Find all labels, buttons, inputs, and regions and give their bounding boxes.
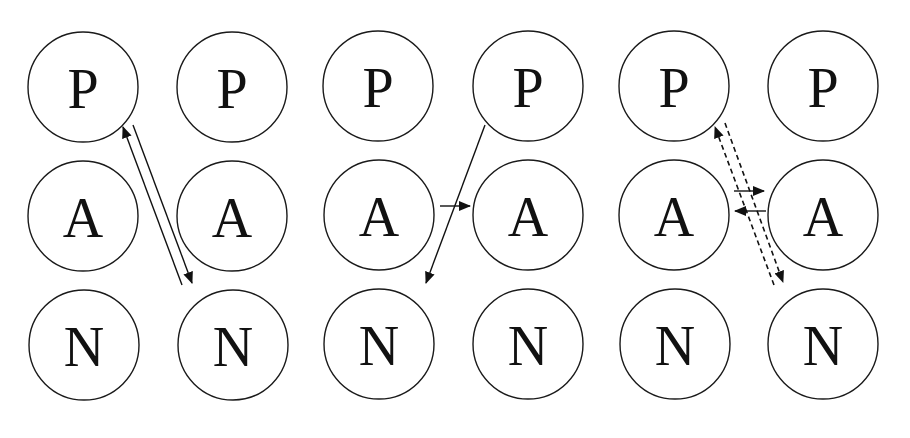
node-p-right: P (768, 31, 878, 141)
node-a-right: A (768, 160, 878, 270)
node-p-right: P (177, 32, 287, 142)
node-n-right: N (473, 289, 583, 399)
node-n-right: N (768, 289, 878, 399)
node-n-right: N (178, 290, 288, 400)
node-n-left: N (324, 289, 434, 399)
svg-text:N: N (655, 315, 695, 377)
svg-text:A: A (63, 187, 104, 249)
panel-3: P P A A N N (619, 31, 878, 399)
svg-text:A: A (803, 186, 844, 248)
svg-text:A: A (654, 186, 695, 248)
node-a-left: A (28, 161, 138, 271)
svg-text:N: N (803, 315, 843, 377)
node-a-left: A (324, 160, 434, 270)
node-p-left: P (323, 31, 433, 141)
node-p-left: P (619, 31, 729, 141)
svg-text:N: N (64, 316, 104, 378)
node-p-right: P (473, 31, 583, 141)
node-a-right: A (177, 161, 287, 271)
panel-2: P P A A N N (323, 31, 583, 399)
node-a-right: A (473, 160, 583, 270)
svg-text:N: N (508, 315, 548, 377)
svg-text:P: P (216, 58, 247, 120)
node-n-left: N (620, 289, 730, 399)
svg-text:A: A (212, 187, 253, 249)
node-n-left: N (29, 290, 139, 400)
svg-text:P: P (658, 57, 689, 119)
node-p-left: P (28, 32, 138, 142)
svg-text:P: P (362, 57, 393, 119)
svg-text:N: N (359, 315, 399, 377)
svg-text:P: P (512, 57, 543, 119)
svg-text:A: A (508, 186, 549, 248)
svg-text:P: P (807, 57, 838, 119)
panel-1: P P A A N N (28, 32, 288, 400)
svg-text:A: A (359, 186, 400, 248)
node-a-left: A (619, 160, 729, 270)
svg-text:N: N (213, 316, 253, 378)
svg-text:P: P (67, 58, 98, 120)
pan-diagram: P P A A N N P P (0, 0, 910, 438)
